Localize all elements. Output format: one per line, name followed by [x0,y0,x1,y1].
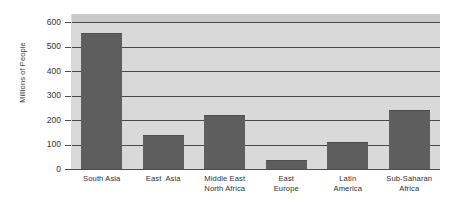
bar [204,115,245,169]
gridline-400 [71,71,440,72]
bar [266,160,307,169]
gridline-200 [71,120,440,121]
category-label-line: Sub-Saharan [371,174,449,184]
bar [81,33,122,169]
bar [143,135,184,169]
y-tick-label-0: 0 [21,165,61,174]
gridline-500 [71,47,440,48]
plot-area [71,14,440,170]
y-tick-label-200: 200 [21,116,61,125]
y-tick-label-300: 300 [21,91,61,100]
y-tick-label-400: 400 [21,67,61,76]
category-label: Sub-SaharanAfrica [371,174,449,194]
bar [389,110,430,169]
bar [327,142,368,169]
x-axis-line [71,169,440,170]
y-axis-line [71,14,72,170]
y-tick-label-100: 100 [21,140,61,149]
gridline-100 [71,145,440,146]
category-label-line: Africa [371,184,449,194]
gridline-300 [71,96,440,97]
y-tick-label-500: 500 [21,42,61,51]
y-tick-label-600: 600 [21,18,61,27]
bar-chart: Millions of People 0100200300400500600 S… [0,0,460,210]
plot-headroom-band [71,14,440,22]
gridline-600 [71,22,440,23]
